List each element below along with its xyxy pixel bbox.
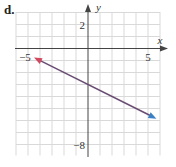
x-axis-label: x xyxy=(157,34,163,46)
tick-labels: yx−552−8 xyxy=(19,1,162,151)
y-tick-label: −8 xyxy=(73,139,85,151)
y-axis-label: y xyxy=(95,1,101,13)
line-segment xyxy=(40,60,151,115)
axes xyxy=(15,4,168,157)
y-tick-label: 2 xyxy=(80,19,86,31)
arrowhead-end-icon xyxy=(148,112,157,118)
x-axis-arrow-icon xyxy=(160,46,168,52)
coordinate-plane: yx−552−8 xyxy=(0,0,176,167)
x-tick-label: −5 xyxy=(19,51,31,63)
y-axis-arrow-icon xyxy=(85,4,91,12)
x-tick-label: 5 xyxy=(145,51,151,63)
